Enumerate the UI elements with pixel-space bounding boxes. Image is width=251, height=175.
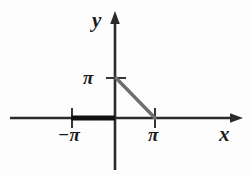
y-axis-label: y bbox=[92, 10, 101, 31]
tick-label-pi-y: π bbox=[83, 68, 93, 87]
graph-figure: y x π −π π bbox=[0, 0, 251, 175]
tick-label-neg-pi-x: −π bbox=[58, 125, 80, 144]
coordinate-plot bbox=[0, 0, 251, 175]
x-axis-arrowhead bbox=[230, 113, 243, 123]
tick-label-pi-x: π bbox=[148, 125, 158, 144]
x-axis-label: x bbox=[219, 124, 230, 145]
descending-ramp-segment bbox=[116, 78, 155, 118]
y-axis-arrowhead bbox=[110, 11, 120, 24]
